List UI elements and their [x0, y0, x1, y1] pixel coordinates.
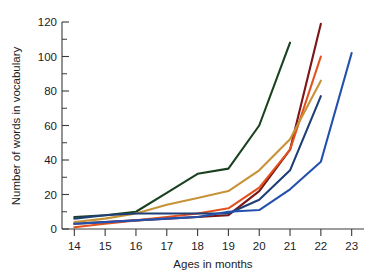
series-line-child-3 [74, 57, 321, 228]
y-axis-tick-labels: 020406080100120 [38, 16, 57, 235]
x-tick-label: 20 [253, 240, 266, 252]
x-tick-label: 23 [345, 240, 358, 252]
data-series-group [74, 24, 351, 228]
x-axis-tick-labels: 14151617181920212223 [68, 240, 358, 252]
y-axis-title: Number of words in vocabulary [10, 46, 22, 205]
x-tick-label: 19 [222, 240, 235, 252]
y-tick-label: 0 [51, 223, 57, 235]
x-axis-major-ticks [74, 229, 351, 236]
x-tick-label: 21 [284, 240, 297, 252]
y-tick-label: 40 [44, 154, 57, 166]
chart-page: 020406080100120 14151617181920212223 Age… [0, 0, 374, 277]
x-axis-title: Ages in months [173, 258, 253, 270]
y-tick-label: 60 [44, 120, 57, 132]
vocabulary-growth-line-chart: 020406080100120 14151617181920212223 Age… [0, 0, 374, 277]
x-tick-label: 16 [130, 240, 143, 252]
x-tick-label: 18 [191, 240, 204, 252]
y-axis-major-ticks [62, 22, 69, 229]
y-axis: 020406080100120 [38, 16, 69, 235]
y-tick-label: 120 [38, 16, 57, 28]
x-tick-label: 22 [314, 240, 327, 252]
y-tick-label: 20 [44, 189, 57, 201]
y-tick-label: 100 [38, 51, 57, 63]
series-line-child-1 [74, 43, 290, 217]
x-tick-label: 17 [160, 240, 173, 252]
x-tick-label: 14 [68, 240, 81, 252]
x-axis: 14151617181920212223 [62, 229, 364, 252]
series-line-child-6 [74, 53, 351, 224]
x-tick-label: 15 [99, 240, 112, 252]
series-line-child-4 [74, 81, 321, 222]
y-tick-label: 80 [44, 85, 57, 97]
